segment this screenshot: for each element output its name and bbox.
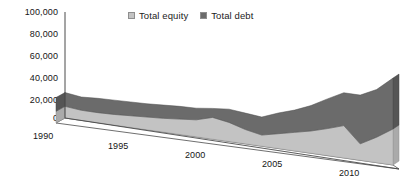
chart-container: Total equity Total debt 100,000 80,000 6… <box>0 0 409 179</box>
debt-area-top-face <box>393 74 399 129</box>
chart-plot-area <box>0 0 409 179</box>
equity-area-top-face <box>393 125 399 165</box>
